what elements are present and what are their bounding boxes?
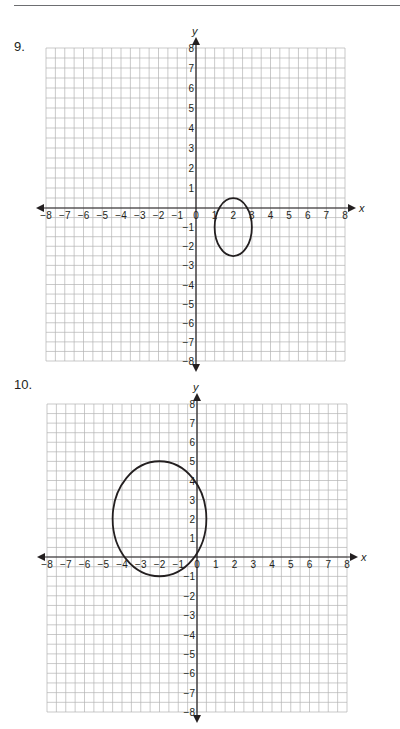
x-tick-label: 2 [232, 559, 238, 570]
x-tick-label: −8 [41, 559, 53, 570]
x-tick-label: −5 [98, 559, 110, 570]
y-tick-label: 6 [189, 437, 195, 448]
x-tick-label: 1 [213, 559, 219, 570]
y-tick-label: 7 [189, 418, 195, 429]
y-tick-label: 2 [189, 514, 195, 525]
tick-labels: −8−7−6−5−4−3−2−101234567887654321−1−2−3−… [41, 399, 350, 718]
y-tick-label: −7 [184, 688, 196, 699]
x-axis-right-arrow-icon [350, 553, 358, 561]
graph-10-svg: xy−8−7−6−5−4−3−2−101234567887654321−1−2−… [0, 0, 400, 729]
x-tick-label: 8 [344, 559, 350, 570]
y-tick-label: 1 [189, 533, 195, 544]
x-tick-label: 4 [269, 559, 275, 570]
x-tick-label: 0 [194, 559, 200, 570]
x-tick-label: 6 [307, 559, 313, 570]
y-tick-label: 5 [189, 456, 195, 467]
x-tick-label: −2 [154, 559, 166, 570]
y-tick-label: −2 [184, 591, 196, 602]
y-tick-label: −5 [184, 649, 196, 660]
y-tick-label: −1 [184, 571, 196, 582]
y-tick-label: −3 [184, 610, 196, 621]
y-tick-label: −4 [184, 630, 196, 641]
x-tick-label: 3 [250, 559, 256, 570]
y-axis-label: y [192, 381, 200, 393]
x-tick-label: −6 [79, 559, 91, 570]
x-tick-label: 5 [288, 559, 294, 570]
y-tick-label: −8 [184, 707, 196, 718]
y-tick-label: 8 [189, 399, 195, 410]
graph-10: xy−8−7−6−5−4−3−2−101234567887654321−1−2−… [0, 0, 400, 729]
x-axis-label: x [360, 551, 367, 563]
x-tick-label: −7 [60, 559, 72, 570]
x-tick-label: 7 [325, 559, 331, 570]
y-tick-label: −6 [184, 668, 196, 679]
y-tick-label: 3 [189, 495, 195, 506]
